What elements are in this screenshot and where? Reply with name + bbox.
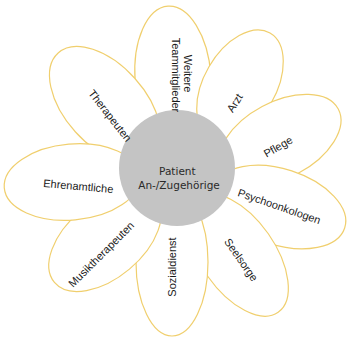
flower-diagram: Weitere Teammitglieder Therapeuten Arzt … bbox=[0, 0, 355, 350]
label-sozialdienst: Sozialdienst bbox=[166, 237, 178, 296]
